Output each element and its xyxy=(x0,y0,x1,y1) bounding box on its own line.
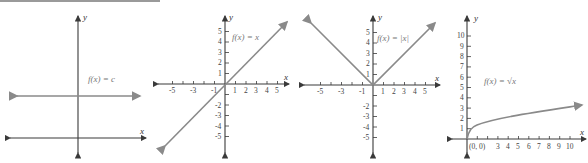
svg-text:4: 4 xyxy=(265,86,269,95)
svg-text:7: 7 xyxy=(537,142,541,151)
svg-text:-3: -3 xyxy=(190,86,196,95)
x-axis-label: x xyxy=(139,126,144,136)
svg-text:4: 4 xyxy=(413,87,417,96)
svg-text:4: 4 xyxy=(506,142,510,151)
panel-constant: y x f(x) = c xyxy=(10,12,146,153)
panel-identity: -5 -3 -1 1 2 3 4 5 5 4 3 2 1 -2 -3 -4 -5… xyxy=(158,12,289,153)
svg-text:-5: -5 xyxy=(169,86,175,95)
svg-text:y: y xyxy=(228,12,233,22)
svg-text:-4: -4 xyxy=(215,122,221,131)
svg-text:y: y xyxy=(473,13,478,23)
svg-text:5: 5 xyxy=(423,87,427,96)
svg-text:3: 3 xyxy=(402,87,406,96)
function-label: f(x) = x xyxy=(232,32,259,42)
svg-text:5: 5 xyxy=(460,83,464,92)
function-label: f(x) = |x| xyxy=(377,33,409,43)
svg-text:-4: -4 xyxy=(363,123,369,132)
svg-text:-5: -5 xyxy=(317,87,323,96)
svg-text:-5: -5 xyxy=(215,132,221,141)
svg-text:9: 9 xyxy=(460,42,464,51)
origin-label: (0, 0) xyxy=(469,142,486,151)
y-axis-label: y xyxy=(82,12,87,22)
svg-text:1: 1 xyxy=(381,87,385,96)
panel-absolute: -5 -3 -1 1 2 3 4 5 5 4 3 2 1 -2 -3 -4 -5… xyxy=(304,12,440,153)
svg-text:4: 4 xyxy=(366,38,370,47)
svg-text:6: 6 xyxy=(527,142,531,151)
svg-text:2: 2 xyxy=(366,59,370,68)
svg-text:-2: -2 xyxy=(215,101,221,110)
svg-text:-3: -3 xyxy=(338,87,344,96)
svg-text:3: 3 xyxy=(366,49,370,58)
svg-text:5: 5 xyxy=(516,142,520,151)
svg-text:5: 5 xyxy=(218,27,222,36)
svg-text:1: 1 xyxy=(233,86,237,95)
svg-text:6: 6 xyxy=(460,73,464,82)
svg-text:2: 2 xyxy=(244,86,248,95)
svg-text:8: 8 xyxy=(460,52,464,61)
svg-text:7: 7 xyxy=(460,62,464,71)
svg-text:x: x xyxy=(434,73,439,83)
svg-text:4: 4 xyxy=(218,37,222,46)
svg-text:8: 8 xyxy=(547,142,551,151)
panel-square-root: (0, 0) 3 4 5 6 7 8 9 10 10 9 8 7 6 5 4 3… xyxy=(452,13,586,153)
function-graphs: y x f(x) = c -5 -3 -1 1 2 3 4 5 5 4 3 2 xyxy=(0,0,588,163)
svg-text:-1: -1 xyxy=(359,87,365,96)
svg-text:x: x xyxy=(579,127,584,137)
svg-text:10: 10 xyxy=(566,142,574,151)
svg-text:5: 5 xyxy=(275,86,279,95)
svg-text:-3: -3 xyxy=(215,111,221,120)
svg-text:9: 9 xyxy=(557,142,561,151)
function-label: f(x) = c xyxy=(88,74,115,84)
svg-text:3: 3 xyxy=(496,142,500,151)
svg-text:1: 1 xyxy=(218,69,222,78)
svg-text:-2: -2 xyxy=(363,102,369,111)
svg-text:5: 5 xyxy=(366,28,370,37)
svg-text:-5: -5 xyxy=(363,133,369,142)
svg-text:2: 2 xyxy=(460,114,464,123)
svg-text:10: 10 xyxy=(457,31,465,40)
svg-text:3: 3 xyxy=(254,86,258,95)
svg-text:2: 2 xyxy=(218,58,222,67)
function-label: f(x) = √x xyxy=(484,76,516,86)
svg-text:1: 1 xyxy=(460,124,464,133)
svg-text:x: x xyxy=(283,72,288,82)
svg-text:2: 2 xyxy=(392,87,396,96)
svg-text:y: y xyxy=(377,12,382,22)
svg-text:3: 3 xyxy=(218,48,222,57)
svg-text:4: 4 xyxy=(460,93,464,102)
svg-text:3: 3 xyxy=(460,104,464,113)
svg-text:-3: -3 xyxy=(363,112,369,121)
